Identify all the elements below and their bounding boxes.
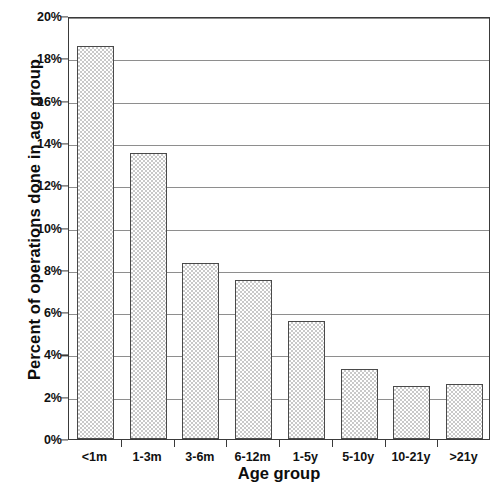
- gridline: [69, 18, 489, 19]
- y-axis-tick-mark: [61, 186, 68, 187]
- x-axis-tick-label: <1m: [82, 450, 107, 464]
- gridline: [69, 103, 489, 104]
- y-axis-tick-mark: [61, 439, 68, 440]
- y-axis-tick-mark: [61, 143, 68, 144]
- y-axis-tick-label: 4%: [16, 348, 62, 362]
- y-axis-tick-mark: [61, 228, 68, 229]
- x-axis-tick-label: 5-10y: [342, 450, 374, 464]
- gridline: [69, 145, 489, 146]
- x-axis-tick-mark: [279, 440, 280, 447]
- y-axis-tick-mark: [61, 16, 68, 17]
- x-axis-tick-mark: [174, 440, 175, 447]
- bar-chart-figure: Percent of operations done in age group …: [0, 0, 502, 487]
- y-axis-tick-mark: [61, 397, 68, 398]
- y-axis-tick-label: 0%: [16, 433, 62, 447]
- plot-area: [68, 17, 490, 440]
- bar: [235, 280, 272, 439]
- gridline: [69, 60, 489, 61]
- bar: [130, 153, 167, 439]
- y-axis-tick-mark: [61, 59, 68, 60]
- x-axis-tick-mark: [332, 440, 333, 447]
- bar: [77, 46, 114, 439]
- y-axis-tick-mark: [61, 101, 68, 102]
- bar: [288, 321, 325, 439]
- y-axis-tick-label: 18%: [16, 52, 62, 66]
- x-axis-tick-label: 6-12m: [235, 450, 271, 464]
- x-axis-tick-label: 1-5y: [293, 450, 318, 464]
- x-axis-tick-mark: [226, 440, 227, 447]
- y-axis-tick-label: 12%: [16, 179, 62, 193]
- y-axis-title: Percent of operations done in age group: [25, 10, 44, 430]
- y-axis-tick-mark: [61, 270, 68, 271]
- x-axis-tick-label: 1-3m: [133, 450, 162, 464]
- bar: [446, 384, 483, 439]
- x-axis-title: Age group: [68, 464, 490, 483]
- bar: [182, 263, 219, 439]
- y-axis-tick-label: 6%: [16, 306, 62, 320]
- y-axis-tick-label: 16%: [16, 95, 62, 109]
- y-axis-tick-mark: [61, 313, 68, 314]
- bar: [393, 386, 430, 439]
- y-axis-tick-label: 2%: [16, 391, 62, 405]
- x-axis-tick-label: >21y: [450, 450, 478, 464]
- y-axis-tick-mark: [61, 355, 68, 356]
- y-axis-tick-label: 20%: [16, 10, 62, 24]
- x-axis-tick-mark: [121, 440, 122, 447]
- x-axis-tick-label: 10-21y: [391, 450, 430, 464]
- x-axis-tick-mark: [437, 440, 438, 447]
- y-axis-tick-label: 8%: [16, 264, 62, 278]
- x-axis-tick-label: 3-6m: [185, 450, 214, 464]
- y-axis-tick-label: 10%: [16, 222, 62, 236]
- x-axis-tick-mark: [385, 440, 386, 447]
- bar: [341, 369, 378, 439]
- y-axis-tick-label: 14%: [16, 137, 62, 151]
